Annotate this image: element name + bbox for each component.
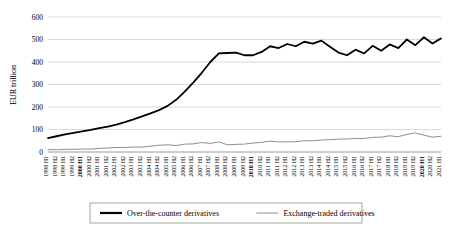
x-axis-tick-label: 2008 H1 [214,156,220,177]
x-axis-tick-label: 2001 H1 [94,156,100,177]
x-axis-tick-label: 2005 H2 [171,156,177,177]
x-axis-tick-label: 2014 H1 [316,156,322,177]
x-axis-tick-label: 2017 H2 [376,156,382,177]
x-axis-tick-label: 2002 H1 [111,156,117,177]
x-axis-tick-label: 2007 H1 [197,156,203,177]
x-axis-tick-label: 2013 H2 [308,156,314,177]
x-axis-tick-label: 1998 H1 [43,156,49,177]
x-axis-tick-label: 2007 H2 [205,156,211,177]
chart-container: EUR trillion 0100200300400500600 1998 H1… [0,0,452,232]
y-axis-tick-label: 500 [32,35,44,44]
y-axis-tick-label: 600 [32,13,44,22]
x-axis-tick-label: 2014 H2 [325,156,331,177]
x-axis-tick-label: 2020 H1 [419,156,425,177]
x-axis-tick-label: 2011 H1 [265,156,271,177]
gridlines [48,17,441,152]
y-axis-tick-label: 100 [32,125,44,134]
derivatives-line-chart: EUR trillion 0100200300400500600 1998 H1… [0,0,452,232]
x-axis-tick-label: 2001 H2 [103,156,109,177]
legend-label: Over-the-counter derivatives [127,209,219,218]
series-line [48,37,441,138]
x-axis-tick-label: 2012 H2 [291,156,297,177]
series-line [48,133,441,150]
x-axis-tick-label: 2011 H2 [274,156,280,177]
x-axis-tick-label: 2013 H1 [299,156,305,177]
y-axis-tick-label: 0 [39,148,43,157]
x-axis-tick-label: 2006 H2 [188,156,194,177]
x-axis-tick-label: 2009 H2 [240,156,246,177]
x-axis-tick-label: 2020 H2 [427,156,433,177]
x-axis-tick-label: 2006 H1 [180,156,186,177]
x-axis-tick-label: 2008 H2 [222,156,228,177]
x-axis-tick-label: 2018 H1 [385,156,391,177]
x-axis-tick-label: 2003 H1 [128,156,134,177]
legend-label: Exchange-traded derivatives [283,209,374,218]
x-axis-tick-label: 2009 H1 [231,156,237,177]
x-axis-tick-label: 2000 H2 [86,156,92,177]
x-axis-tick-label: 2012 H1 [282,156,288,177]
x-axis-tick-label: 2015 H1 [333,156,339,177]
x-axis-tick-label: 2019 H1 [402,156,408,177]
x-axis-tick-label: 2010 H2 [257,156,263,177]
x-axis-tick-label: 2021 H1 [436,156,442,177]
x-axis-tick-label: 2002 H2 [120,156,126,177]
x-axis-tick-label: 2004 H2 [154,156,160,177]
y-axis-tick-labels: 0100200300400500600 [32,13,44,157]
x-axis-tick-label: 2015 H2 [342,156,348,177]
y-axis-tick-label: 200 [32,103,44,112]
chart-legend: Over-the-counter derivativesExchange-tra… [90,203,375,223]
y-axis-title: EUR trillion [9,65,18,105]
x-axis-tick-label: 2010 H1 [248,156,254,177]
x-axis-tick-label: 2005 H1 [163,156,169,177]
x-axis-tick-label: 2016 H1 [351,156,357,177]
x-axis-tick-label: 2003 H2 [137,156,143,177]
x-axis-tick-label: 2017 H1 [368,156,374,177]
x-axis-tick-label: 1998 H2 [52,156,58,177]
x-axis-tick-label: 1999 H2 [69,156,75,177]
x-axis-tick-labels: 1998 H11998 H21999 H11999 H22000 H12000 … [43,156,442,177]
y-axis-tick-label: 400 [32,58,44,67]
y-axis-title-group: EUR trillion [9,65,18,105]
series-lines [48,37,441,150]
x-axis-tick-label: 1999 H1 [60,156,66,177]
x-axis-tick-label: 2019 H2 [410,156,416,177]
x-axis-tick-label: 2016 H2 [359,156,365,177]
x-axis-tick-label: 2004 H1 [146,156,152,177]
y-axis-tick-label: 300 [32,80,44,89]
x-axis-tick-label: 2018 H2 [393,156,399,177]
x-axis-tick-label: 2000 H1 [77,156,83,177]
